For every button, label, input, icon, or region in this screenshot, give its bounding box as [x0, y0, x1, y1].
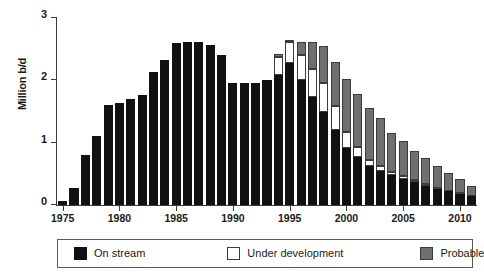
bar-1990: [228, 83, 237, 205]
bar-1991: [240, 83, 249, 205]
bar-1992: [251, 83, 260, 205]
legend-item-probable[interactable]: Probable: [420, 247, 484, 260]
plot-area: 0123 19751980198519901995200020052010: [57, 18, 477, 205]
bar-segment-on-stream: [115, 103, 124, 205]
bar-1994: [274, 54, 283, 205]
bar-1983: [149, 72, 158, 205]
bar-1998: [319, 46, 328, 205]
x-tick-label: 2000: [335, 213, 358, 224]
bar-segment-under-development: [319, 83, 328, 111]
x-tick-1975: [63, 206, 64, 211]
bar-1979: [104, 105, 113, 205]
legend-swatch-onstream-icon: [74, 247, 87, 260]
bar-segment-on-stream: [353, 157, 362, 205]
bar-segment-probable: [365, 108, 374, 159]
bar-segment-under-development: [297, 55, 306, 80]
bar-1982: [138, 95, 147, 205]
bar-segment-under-development: [399, 176, 408, 178]
bar-1976: [69, 188, 78, 205]
bar-1993: [262, 80, 271, 205]
legend-item-onstream[interactable]: On stream: [74, 247, 145, 260]
bar-1988: [206, 45, 215, 205]
bar-segment-probable: [421, 158, 430, 184]
y-axis-line: [56, 18, 57, 206]
x-tick-2005: [403, 206, 404, 211]
bar-1995: [285, 40, 294, 205]
bar-segment-probable: [353, 94, 362, 147]
bar-segment-on-stream: [274, 75, 283, 205]
bar-segment-on-stream: [194, 42, 203, 205]
bar-2006: [410, 151, 419, 205]
bar-segment-probable: [410, 151, 419, 180]
x-tick-label: 1985: [165, 213, 188, 224]
bar-1980: [115, 103, 124, 205]
bar-segment-on-stream: [455, 194, 464, 205]
bar-2007: [421, 158, 430, 205]
y-axis-label: Million b/d: [16, 36, 28, 132]
bar-segment-on-stream: [331, 130, 340, 205]
bar-segment-probable: [342, 79, 351, 132]
bar-segment-on-stream: [387, 175, 396, 205]
bar-segment-on-stream: [183, 42, 192, 205]
bar-1985: [172, 43, 181, 205]
y-tick-1: 1: [51, 142, 57, 143]
bar-segment-on-stream: [410, 182, 419, 205]
bar-segment-under-development: [331, 106, 340, 130]
bar-segment-on-stream: [69, 188, 78, 205]
bar-segment-on-stream: [126, 99, 135, 205]
bar-segment-probable: [376, 118, 385, 166]
bar-segment-on-stream: [444, 191, 453, 205]
bar-1986: [183, 42, 192, 205]
bar-2011: [467, 186, 476, 205]
bar-2000: [342, 79, 351, 205]
x-tick-label: 1980: [108, 213, 131, 224]
bar-segment-under-development: [410, 180, 419, 182]
bar-1984: [160, 60, 169, 205]
x-tick-1990: [233, 206, 234, 211]
bar-segment-under-development: [274, 57, 283, 75]
bar-segment-on-stream: [138, 95, 147, 205]
bar-segment-on-stream: [308, 97, 317, 205]
bar-segment-on-stream: [104, 105, 113, 205]
bar-segment-on-stream: [342, 148, 351, 205]
x-tick-label: 2005: [392, 213, 415, 224]
x-tick-1980: [119, 206, 120, 211]
bar-segment-under-development: [308, 69, 317, 98]
bar-segment-on-stream: [319, 112, 328, 206]
y-tick-label: 3: [41, 9, 47, 20]
bar-2010: [455, 179, 464, 205]
bar-segment-on-stream: [262, 80, 271, 205]
legend-swatch-probable-icon: [420, 247, 433, 260]
legend-swatch-underdev-icon: [227, 247, 240, 260]
bar-segment-on-stream: [217, 55, 226, 205]
bar-segment-probable: [433, 166, 442, 187]
x-tick-label: 1995: [278, 213, 301, 224]
bar-segment-probable: [387, 133, 396, 172]
bar-segment-probable: [285, 40, 294, 42]
bar-2002: [365, 108, 374, 205]
bar-segment-on-stream: [206, 45, 215, 205]
bar-segment-on-stream: [467, 196, 476, 205]
bar-1978: [92, 136, 101, 205]
y-tick-3: 3: [51, 17, 57, 18]
x-tick-label: 2010: [448, 213, 471, 224]
bar-1977: [81, 155, 90, 205]
bar-2001: [353, 94, 362, 205]
bar-segment-probable: [399, 141, 408, 176]
x-tick-1995: [290, 206, 291, 211]
bar-segment-probable: [467, 186, 476, 197]
bar-segment-on-stream: [421, 186, 430, 205]
bar-segment-on-stream: [58, 201, 67, 205]
bar-segment-on-stream: [365, 166, 374, 205]
x-tick-1985: [176, 206, 177, 211]
bar-segment-probable: [455, 179, 464, 193]
bar-segment-under-development: [342, 132, 351, 148]
legend-label: On stream: [94, 248, 145, 259]
bar-segment-under-development: [387, 172, 396, 175]
bar-segment-probable: [308, 42, 317, 69]
bar-segment-under-development: [376, 166, 385, 170]
x-tick-2010: [460, 206, 461, 211]
bar-segment-under-development: [285, 42, 294, 63]
bar-segment-on-stream: [285, 63, 294, 205]
legend-item-underdev[interactable]: Under development: [227, 247, 343, 260]
